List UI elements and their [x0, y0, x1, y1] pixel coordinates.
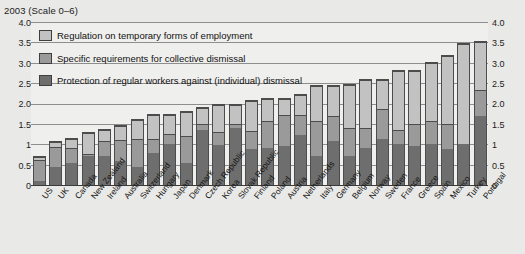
bar-column[interactable] — [374, 23, 390, 186]
bar-segment — [426, 63, 437, 122]
y-tick-right: 0.5 — [492, 162, 518, 171]
bar-segment — [164, 134, 175, 145]
bar-segment — [458, 44, 469, 145]
bar-segment — [66, 148, 77, 162]
bar-segment — [377, 109, 388, 139]
x-label-cell: Czech Republic — [194, 188, 210, 252]
x-label-cell: Korea — [211, 188, 227, 252]
bar-column[interactable] — [456, 23, 472, 186]
stacked-bar[interactable] — [180, 111, 193, 186]
bar-column[interactable] — [309, 23, 325, 186]
bar-segment — [197, 108, 208, 124]
x-label-cell: Italy — [309, 188, 325, 252]
legend-item-temporary: Regulation on temporary forms of employm… — [39, 30, 302, 41]
bar-column[interactable] — [390, 23, 406, 186]
bar-column[interactable] — [439, 23, 455, 186]
x-label-cell: Germany — [325, 188, 341, 252]
bar-segment — [148, 115, 159, 140]
chart-root: 2003 (Scale 0–6) 4.0 3.5 3.0 2.5 2.0 1.5… — [0, 0, 525, 254]
y-tick-left: 4.0 — [7, 19, 31, 28]
x-label-cell: Hungary — [145, 188, 161, 252]
stacked-bar[interactable] — [33, 156, 46, 186]
bar-segment — [377, 80, 388, 109]
bar-column[interactable] — [472, 23, 488, 186]
bar-segment — [99, 141, 110, 156]
bar-segment — [148, 139, 159, 153]
y-tick-left: 3.5 — [7, 39, 31, 48]
x-label-cell: UK — [47, 188, 63, 252]
bar-column[interactable] — [407, 23, 423, 186]
x-label-cell: Canada — [64, 188, 80, 252]
bar-segment — [66, 139, 77, 148]
bar-segment — [181, 136, 192, 162]
bar-segment — [393, 130, 404, 144]
bar-segment — [66, 163, 77, 185]
bar-segment — [50, 167, 61, 185]
stacked-bar[interactable] — [474, 41, 487, 186]
x-label-cell: New Zealand — [80, 188, 96, 252]
bar-segment — [360, 128, 371, 148]
bar-column[interactable] — [358, 23, 374, 186]
bar-segment — [328, 116, 339, 141]
bar-segment — [34, 160, 45, 181]
bar-segment — [393, 71, 404, 130]
bar-segment — [246, 131, 257, 149]
legend-swatch-icon — [39, 30, 52, 41]
stacked-bar[interactable] — [457, 43, 470, 186]
bar-segment — [132, 139, 143, 168]
x-label-cell: Slovak Republic — [227, 188, 243, 252]
stacked-bar[interactable] — [294, 94, 307, 186]
bar-column[interactable] — [341, 23, 357, 186]
legend: Regulation on temporary forms of employm… — [39, 30, 302, 86]
stacked-bar[interactable] — [408, 70, 421, 186]
stacked-bar[interactable] — [359, 79, 372, 186]
y-tick-right: 1.5 — [492, 121, 518, 130]
legend-item-collective: Specific requirements for collective dis… — [39, 53, 302, 64]
y-tick-right: 2.5 — [492, 80, 518, 89]
bar-segment — [409, 71, 420, 124]
y-tick-left: 2.5 — [7, 80, 31, 89]
y-tick-right: 4.0 — [492, 19, 518, 28]
stacked-bar[interactable] — [49, 141, 62, 186]
y-tick-left: 0.5 — [7, 162, 31, 171]
legend-swatch-icon — [39, 75, 52, 86]
bar-segment — [262, 121, 273, 149]
bar-segment — [360, 80, 371, 127]
bar-segment — [344, 85, 355, 129]
bar-segment — [409, 124, 420, 146]
stacked-bar[interactable] — [425, 62, 438, 186]
bar-segment — [426, 121, 437, 144]
bar-segment — [328, 86, 339, 115]
bar-column[interactable] — [423, 23, 439, 186]
y-tick-right: 3.5 — [492, 39, 518, 48]
x-label-cell: Netherlands — [292, 188, 308, 252]
y-tick-left: 2.0 — [7, 100, 31, 109]
x-label-cell: US — [31, 188, 47, 252]
bar-segment — [279, 99, 290, 115]
x-label-cell: France — [390, 188, 406, 252]
legend-label: Protection of regular workers against (i… — [57, 75, 302, 86]
stacked-bar[interactable] — [392, 70, 405, 186]
x-label-cell: Greece — [407, 188, 423, 252]
bar-segment — [50, 147, 61, 167]
bar-segment — [475, 42, 486, 89]
legend-swatch-icon — [39, 53, 52, 64]
x-label-cell: Belgium — [341, 188, 357, 252]
x-label-cell: Denmark — [178, 188, 194, 252]
bar-segment — [213, 132, 224, 145]
stacked-bar[interactable] — [65, 138, 78, 186]
bar-segment — [181, 112, 192, 136]
x-label-cell: Spain — [423, 188, 439, 252]
bar-segment — [442, 124, 453, 149]
bar-segment — [311, 121, 322, 156]
stacked-bar[interactable] — [376, 79, 389, 186]
bar-segment — [295, 115, 306, 135]
x-label-cell: Switzerland — [129, 188, 145, 252]
bar-segment — [246, 101, 257, 130]
y-tick-right: 3.0 — [492, 60, 518, 69]
bar-segment — [279, 115, 290, 146]
stacked-bar[interactable] — [441, 55, 454, 186]
bar-segment — [311, 86, 322, 121]
x-label-cell: Austria — [276, 188, 292, 252]
bar-segment — [442, 56, 453, 124]
